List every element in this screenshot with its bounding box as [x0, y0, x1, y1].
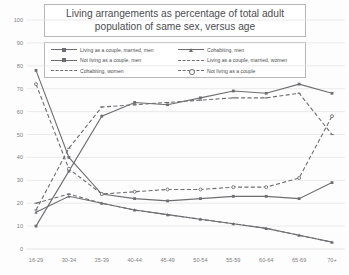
x-axis-tick-label: 40-44 — [128, 257, 142, 263]
plot-area: 0102030405060708090100 16-2930-3435-3940… — [0, 0, 349, 275]
x-axis-tick-label: 16-29 — [29, 257, 43, 263]
x-axis-labels: 16-2930-3435-3940-4445-4950-5455-5960-64… — [0, 0, 349, 275]
x-axis-tick-label: 70+ — [327, 257, 337, 263]
chart-container: Living arrangements as percentage of tot… — [0, 0, 349, 275]
x-axis-tick-label: 45-49 — [160, 257, 174, 263]
x-axis-tick-label: 30-34 — [62, 257, 76, 263]
x-axis-tick-label: 50-54 — [193, 257, 207, 263]
x-axis-tick-label: 35-39 — [95, 257, 109, 263]
x-axis-tick-label: 65-69 — [292, 257, 306, 263]
x-axis-tick-label: 55-59 — [226, 257, 240, 263]
x-axis-tick-label: 60-64 — [259, 257, 273, 263]
